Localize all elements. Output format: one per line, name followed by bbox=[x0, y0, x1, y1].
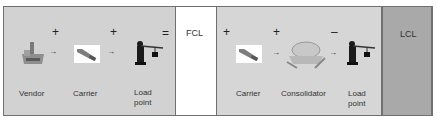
factory-icon bbox=[20, 40, 46, 66]
plus-operator: + bbox=[52, 26, 59, 38]
step-label-consolidator: Consolidator bbox=[281, 89, 326, 99]
step-label-load: Load bbox=[134, 88, 152, 98]
equals-operator: = bbox=[162, 27, 169, 39]
step-label-point: point bbox=[348, 99, 365, 109]
step-label-vendor: Vendor bbox=[19, 89, 44, 99]
minus-operator: – bbox=[331, 26, 338, 38]
crane-icon bbox=[133, 40, 165, 66]
truck-icon bbox=[236, 45, 262, 63]
arrow-icon: → bbox=[329, 48, 337, 57]
plus-operator: + bbox=[273, 26, 280, 38]
fcl-result-panel bbox=[175, 6, 217, 116]
warehouse-icon bbox=[285, 38, 327, 70]
step-label-load: Load bbox=[348, 89, 366, 99]
step-label-point: point bbox=[134, 98, 151, 108]
arrow-icon: → bbox=[107, 47, 115, 56]
lcl-label: LCL bbox=[400, 29, 417, 39]
truck-icon bbox=[74, 45, 100, 63]
plus-operator: + bbox=[110, 26, 117, 38]
lcl-result-panel bbox=[381, 6, 433, 116]
arrow-icon: → bbox=[272, 48, 280, 57]
step-label-carrier: Carrier bbox=[236, 89, 260, 99]
arrow-icon: → bbox=[49, 47, 57, 56]
step-label-carrier: Carrier bbox=[73, 89, 97, 99]
plus-operator: + bbox=[223, 26, 230, 38]
fcl-label: FCL bbox=[186, 28, 203, 38]
crane-icon bbox=[345, 40, 377, 66]
